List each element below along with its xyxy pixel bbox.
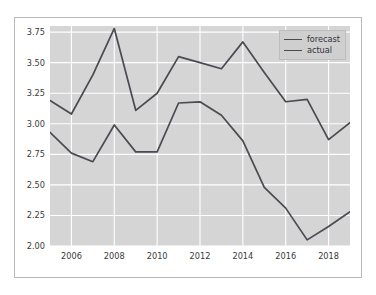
legend-line-swatch: [284, 50, 302, 51]
y-tick-label: 2.75: [4, 150, 50, 158]
y-tick-label: 3.50: [4, 59, 50, 67]
y-tick-label: 2.00: [4, 242, 50, 250]
y-axis-ticks: 2.002.252.502.753.003.253.503.75: [0, 26, 50, 246]
y-tick-label: 3.00: [4, 120, 50, 128]
x-tick-label: 2014: [232, 252, 253, 260]
x-tick-label: 2016: [275, 252, 296, 260]
x-tick-label: 2006: [61, 252, 82, 260]
y-tick-label: 2.25: [4, 211, 50, 219]
x-tick-label: 2010: [147, 252, 168, 260]
chart-figure: forecastactual 2.002.252.502.753.003.253…: [0, 0, 376, 295]
legend-item-forecast: forecast: [284, 34, 340, 45]
plot-area: forecastactual: [50, 26, 350, 246]
x-tick-label: 2018: [318, 252, 339, 260]
legend-label: actual: [307, 46, 332, 54]
y-tick-label: 3.25: [4, 89, 50, 97]
series-line-actual: [50, 102, 350, 240]
x-tick-label: 2008: [104, 252, 125, 260]
chart-legend: forecastactual: [279, 30, 346, 60]
x-axis-ticks: 2006200820102012201420162018: [50, 252, 350, 266]
x-tick-label: 2012: [190, 252, 211, 260]
legend-line-swatch: [284, 39, 302, 40]
y-tick-label: 3.75: [4, 28, 50, 36]
y-tick-label: 2.50: [4, 181, 50, 189]
legend-item-actual: actual: [284, 45, 340, 56]
legend-label: forecast: [307, 35, 340, 43]
